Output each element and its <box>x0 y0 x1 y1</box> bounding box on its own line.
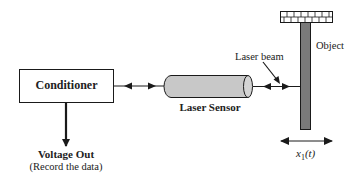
laser-beam-label: Laser beam <box>235 51 284 62</box>
beam-arrowhead-right-icon <box>282 83 290 90</box>
disp-arrowhead-right-icon <box>324 137 333 145</box>
object-bar <box>301 23 311 130</box>
disp-arrowhead-left-icon <box>280 137 289 145</box>
arrowhead-left-icon <box>124 83 132 90</box>
laser-sensor-cylinder <box>164 76 253 98</box>
conditioner-label: Conditioner <box>19 78 114 93</box>
laser-sensor-label: Laser Sensor <box>170 101 250 113</box>
object-label: Object <box>316 40 344 51</box>
record-data-label: (Record the data) <box>12 161 120 172</box>
beam-arrowhead-left-icon <box>263 83 271 90</box>
voltage-out-label: Voltage Out <box>16 148 116 160</box>
arrowhead-right-icon <box>148 83 156 90</box>
displacement-label: x1(t) <box>296 147 315 162</box>
displacement-argument: (t) <box>305 147 315 159</box>
brick-wall-icon <box>281 12 333 23</box>
